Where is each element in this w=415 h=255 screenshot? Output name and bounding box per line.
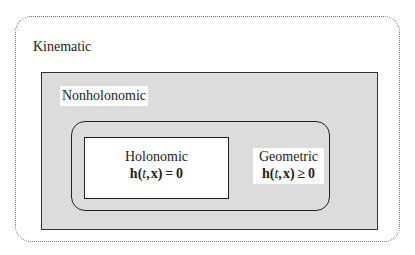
kinematic-label: Kinematic <box>33 39 91 55</box>
geometric-equation: h(t, x) ≥ 0 <box>253 165 324 182</box>
holonomic-label: Holonomic <box>85 148 228 165</box>
nonholonomic-label: Nonholonomic <box>60 86 148 106</box>
holonomic-box: Holonomic h(t, x) = 0 <box>84 137 229 199</box>
geometric-label: Geometric <box>253 148 324 165</box>
geometric-box: Geometric h(t, x) ≥ 0 <box>253 148 324 184</box>
holonomic-equation: h(t, x) = 0 <box>85 165 228 182</box>
